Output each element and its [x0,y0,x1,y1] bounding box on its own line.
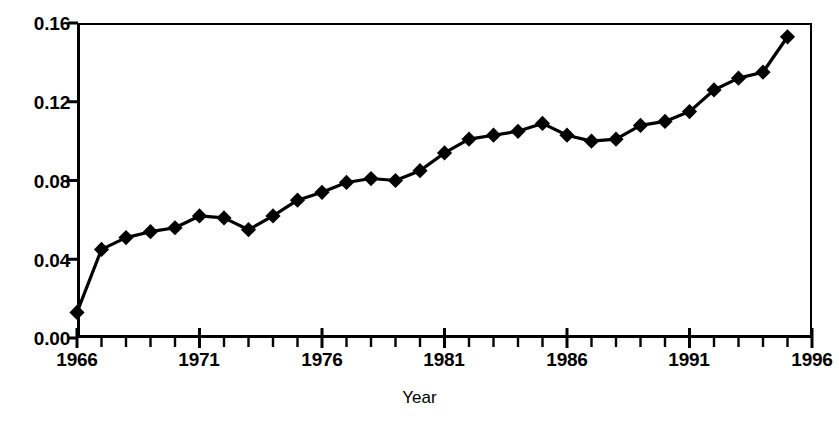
y-tick-label-0.12: 0.12 [8,93,70,112]
x-tick-label-1976: 1976 [282,350,362,369]
y-tick-label-0.00: 0.00 [8,329,70,348]
x-axis-title: Year [0,388,839,408]
x-tick-label-1991: 1991 [649,350,729,369]
line-chart: 0.16 0.12 0.08 0.04 0.00 1966 1971 1976 … [0,0,839,429]
x-tick-label-1966: 1966 [37,350,117,369]
x-tick-label-1986: 1986 [527,350,607,369]
plot-frame [77,23,812,338]
x-tick-label-1981: 1981 [404,350,484,369]
x-tick-label-1996: 1996 [772,350,839,369]
x-tick-label-1971: 1971 [159,350,239,369]
y-tick-label-0.04: 0.04 [8,251,70,270]
y-tick-label-0.16: 0.16 [8,14,70,33]
y-tick-label-0.08: 0.08 [8,172,70,191]
